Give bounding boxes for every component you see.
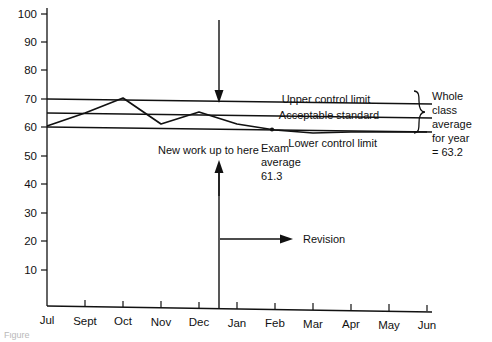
new-work-up-arrow [215,160,224,196]
y-axis [41,8,47,306]
x-axis-tick-labels: Jul Sept Oct Nov Dec Jan Feb Mar Apr May… [40,314,437,331]
x-tick-jan: Jan [228,317,247,329]
exam-average-value: 61.3 [261,170,282,182]
x-tick-dec: Dec [189,316,210,328]
upper-control-limit-label: Upper control limit [282,93,371,105]
x-tick-feb: Feb [265,317,285,329]
chart-root: 100 90 80 70 60 50 40 30 20 10 Jul [0,0,492,342]
brace-label-line3: average [432,118,472,130]
exam-average-label-line2: average [261,156,301,168]
brace-label-line2: class [432,104,458,116]
y-tick-20: 20 [24,235,37,247]
exam-average-label-line1: Exam [261,142,289,154]
y-tick-90: 90 [24,36,37,48]
x-tick-may: May [378,319,400,331]
x-axis [47,300,432,312]
y-tick-80: 80 [24,64,37,76]
y-tick-10: 10 [24,264,37,276]
revision-label: Revision [303,233,345,245]
control-chart-figure: 100 90 80 70 60 50 40 30 20 10 Jul [0,0,492,342]
x-tick-mar: Mar [303,318,323,330]
new-work-label: New work up to here [158,144,259,156]
revision-arrow [220,235,293,244]
y-tick-40: 40 [24,178,37,190]
y-tick-30: 30 [24,207,37,219]
lower-control-limit-label: Lower control limit [288,137,377,149]
x-tick-sept: Sept [73,315,97,327]
x-tick-nov: Nov [151,316,172,328]
x-tick-apr: Apr [342,318,360,330]
upper-control-limit-line [47,99,432,104]
y-tick-100: 100 [18,8,37,20]
y-tick-70: 70 [24,93,37,105]
y-tick-60: 60 [24,121,37,133]
x-tick-jul: Jul [40,314,55,326]
figure-caption: Figure [4,332,30,340]
brace-label-line5: = 63.2 [432,146,463,158]
new-work-down-arrow [215,20,224,103]
whole-class-average-brace [414,91,425,133]
acceptable-standard-label: Acceptable standard [279,109,379,121]
y-axis-tick-labels: 100 90 80 70 60 50 40 30 20 10 [18,8,37,276]
x-tick-jun: Jun [418,319,437,331]
x-tick-oct: Oct [114,315,133,327]
y-tick-50: 50 [24,150,37,162]
brace-label-line4: for year [432,132,470,144]
figure-caption-strip: Figure [0,332,492,342]
data-point-marker [270,127,274,131]
brace-label-line1: Whole [432,90,463,102]
